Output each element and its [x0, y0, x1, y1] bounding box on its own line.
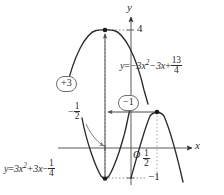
fraction-one-half: 1 2: [143, 149, 150, 169]
equation-lower-term1: 3x: [14, 163, 23, 174]
fraction-denominator: 2: [74, 112, 81, 122]
tick-label-y-neg1: −1: [148, 171, 160, 182]
fraction-thirteen-fourths: 13 4: [171, 56, 182, 76]
curve-lower-parabola: [82, 104, 131, 178]
equation-lower: y=3x2+3x− 1 4: [4, 160, 55, 180]
equation-upper: y=−3x2−3x+ 13 4: [120, 57, 182, 77]
math-figure: y x 4 −1 O 1 2 − 1 2 +3 −1 y=−3x2−3x+ 13…: [0, 0, 224, 195]
vertex-dot-bottom: [103, 176, 108, 181]
fraction-one-fourth: 1 4: [48, 159, 55, 179]
equation-upper-term2: −3x: [149, 60, 165, 71]
tick-label-y-4: 4: [137, 23, 143, 34]
tick-label-x-neg-half: − 1 2: [68, 103, 80, 123]
callout-shift-y: +3: [56, 76, 77, 92]
origin-label: O: [133, 150, 140, 160]
equation-upper-term1: −3x: [130, 60, 146, 71]
tick-label-x-half: 1 2: [143, 150, 150, 170]
x-axis-label: x: [195, 140, 200, 151]
vertex-dot-top: [103, 28, 108, 33]
y-axis-label: y: [127, 2, 132, 13]
curved-arrow: [86, 124, 104, 146]
equation-lower-term2: +3x: [27, 163, 43, 174]
callout-shift-x: −1: [118, 95, 139, 111]
fraction-denominator: 4: [48, 169, 55, 179]
vertex-dot-right: [155, 110, 160, 115]
fraction-one-half-neg: 1 2: [74, 102, 81, 122]
fraction-denominator: 2: [143, 159, 150, 169]
fraction-denominator: 4: [173, 66, 180, 76]
